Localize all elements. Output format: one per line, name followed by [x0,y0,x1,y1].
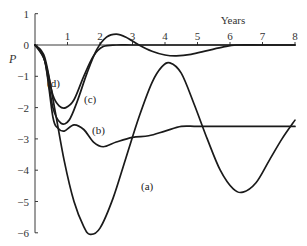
curves [35,34,295,234]
y-tick-label: −4 [17,164,29,176]
x-tick-label: 4 [162,30,168,42]
y-tick-label: −6 [17,227,29,239]
curve-label-d: (d) [47,77,60,90]
y-tick-label: 1 [24,8,30,20]
y-tick-label: 0 [24,39,30,51]
curve-a [35,45,295,234]
line-chart: 10−1−2−3−4−5−612345678YearsP (a)(b)(c)(d… [0,0,307,246]
curve-b [35,45,295,147]
y-tick-label: −1 [17,70,29,82]
curve-c [35,34,295,124]
curve-label-a: (a) [141,180,154,193]
x-axis-title: Years [221,14,246,26]
curve-label-c: (c) [84,93,97,106]
x-tick-label: 2 [97,30,103,42]
x-tick-label: 6 [227,30,233,42]
y-tick-label: −5 [17,196,29,208]
x-tick-label: 5 [195,30,201,42]
y-axis-title: P [8,52,17,66]
axes: 10−1−2−3−4−5−612345678YearsP [8,8,298,239]
x-tick-label: 7 [260,30,266,42]
y-tick-label: −2 [17,102,29,114]
curve-labels: (a)(b)(c)(d) [47,77,154,193]
y-tick-label: −3 [17,133,29,145]
x-tick-label: 8 [292,30,298,42]
x-tick-label: 1 [65,30,71,42]
curve-label-b: (b) [92,124,105,137]
